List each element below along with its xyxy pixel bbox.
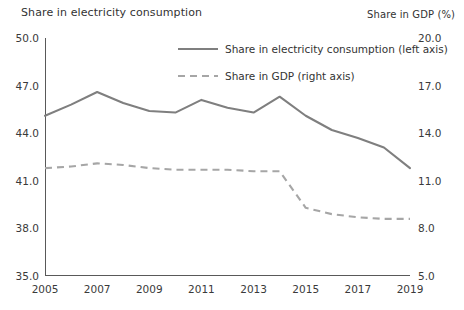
left-axis-tick: 50.0 <box>16 32 39 44</box>
legend-item[interactable]: Share in electricity consumption (left a… <box>178 38 418 59</box>
left-axis-tick: 35.0 <box>16 270 39 282</box>
legend-dashed-line-icon <box>178 71 218 81</box>
x-axis-tick: 2015 <box>292 283 319 295</box>
right-axis-tick: 17.0 <box>418 80 441 92</box>
left-axis-tick: 41.0 <box>16 175 39 187</box>
line-share-electricity-consumption <box>45 92 410 168</box>
left-axis-tick: 47.0 <box>16 80 39 92</box>
x-axis-tick: 2019 <box>397 283 424 295</box>
legend-item-label: Share in GDP (right axis) <box>225 70 355 82</box>
x-axis-tick: 2009 <box>136 283 163 295</box>
right-axis-title: Share in GDP (%) <box>367 9 455 20</box>
left-axis-tick: 38.0 <box>16 222 39 234</box>
left-axis-title: Share in electricity consumption <box>21 6 202 19</box>
right-axis-tick: 5.0 <box>418 270 435 282</box>
x-axis-tick: 2017 <box>344 283 371 295</box>
line-share-gdp <box>45 163 410 219</box>
x-axis-tick: 2005 <box>32 283 59 295</box>
x-axis-tick: 2007 <box>84 283 111 295</box>
legend-solid-line-icon <box>178 44 218 54</box>
chart-figure: Share in electricity consumption Share i… <box>0 0 464 310</box>
x-axis-tick: 2011 <box>188 283 215 295</box>
left-axis-tick: 44.0 <box>16 127 39 139</box>
right-axis-tick: 11.0 <box>418 175 441 187</box>
legend: Share in electricity consumption (left a… <box>178 38 418 92</box>
right-axis-tick: 14.0 <box>418 127 441 139</box>
right-axis-tick: 8.0 <box>418 222 435 234</box>
legend-item-label: Share in electricity consumption (left a… <box>225 43 448 55</box>
legend-item[interactable]: Share in GDP (right axis) <box>178 65 418 86</box>
x-axis-tick: 2013 <box>240 283 267 295</box>
